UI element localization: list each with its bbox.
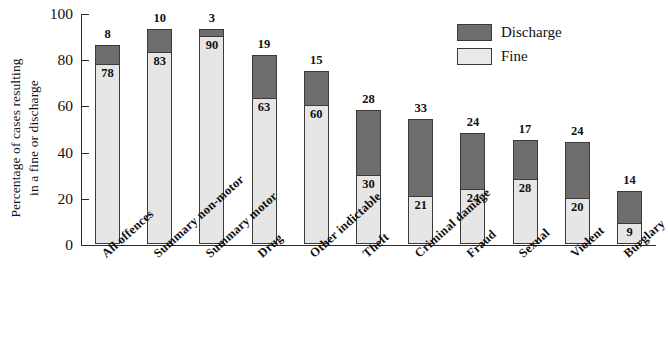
bar-segment-discharge[interactable] <box>199 29 224 36</box>
bar-segment-discharge[interactable] <box>565 142 590 197</box>
bar-theft[interactable]: 2830 <box>356 110 381 244</box>
y-axis-line <box>81 14 82 246</box>
chart-legend: Discharge Fine <box>457 22 627 70</box>
bar-top-label: 24 <box>451 116 494 129</box>
y-axis-tick-mark <box>82 153 89 154</box>
bar-segment-discharge[interactable] <box>408 119 433 195</box>
bar-criminal-damage[interactable]: 3321 <box>408 119 433 244</box>
bar-segment-fine-value: 20 <box>566 201 589 214</box>
bar-segment-discharge[interactable] <box>513 140 538 179</box>
bar-segment-fine[interactable]: 78 <box>95 64 120 244</box>
y-axis-tick-mark <box>82 60 89 61</box>
bar-top-label: 8 <box>86 28 129 41</box>
bar-top-label: 15 <box>295 54 338 67</box>
bar-violent[interactable]: 2420 <box>565 142 590 244</box>
bar-segment-discharge[interactable] <box>460 133 485 188</box>
bar-all-offences[interactable]: 878 <box>95 45 120 244</box>
bar-top-label: 28 <box>347 93 390 106</box>
bar-segment-discharge[interactable] <box>147 29 172 52</box>
bar-segment-fine-value: 60 <box>305 108 328 121</box>
y-tick-label: 20 <box>33 191 73 207</box>
bar-top-label: 10 <box>138 12 181 25</box>
y-axis-title-line-1: Percentage of cases resulting <box>7 13 25 263</box>
bar-top-label: 3 <box>190 12 233 25</box>
bar-top-label: 14 <box>608 174 651 187</box>
bar-segment-discharge[interactable] <box>95 45 120 63</box>
bar-other-indictable[interactable]: 1560 <box>304 71 329 244</box>
legend-swatch-fine-icon <box>457 48 492 65</box>
y-axis-title-line-2: in a fine or discharge <box>25 13 43 263</box>
bar-segment-fine[interactable]: 60 <box>304 105 329 244</box>
legend-label-discharge: Discharge <box>501 25 562 40</box>
legend-swatch-discharge-icon <box>457 24 492 41</box>
bar-segment-fine-value: 28 <box>514 182 537 195</box>
y-axis-tick-mark <box>82 14 89 15</box>
legend-label-fine: Fine <box>501 49 528 64</box>
bar-segment-discharge[interactable] <box>252 55 277 99</box>
legend-item-fine: Fine <box>457 46 627 67</box>
y-tick-label: 80 <box>33 52 73 68</box>
bar-top-label: 19 <box>243 38 286 51</box>
bar-segment-fine-value: 63 <box>253 101 276 114</box>
bar-segment-discharge[interactable] <box>617 191 642 223</box>
y-tick-label: 0 <box>33 237 73 253</box>
bar-segment-fine-value: 90 <box>200 39 223 52</box>
y-tick-label: 100 <box>33 6 73 22</box>
y-axis-tick-mark <box>82 199 89 200</box>
bar-segment-discharge[interactable] <box>356 110 381 175</box>
bar-segment-fine-value: 30 <box>357 178 380 191</box>
bar-top-label: 24 <box>556 125 599 138</box>
y-axis-tick-mark <box>82 245 89 246</box>
bar-segment-discharge[interactable] <box>304 71 329 106</box>
bar-top-label: 17 <box>504 123 547 136</box>
bar-sexual[interactable]: 1728 <box>513 140 538 244</box>
bar-segment-fine-value: 78 <box>96 67 119 80</box>
y-axis-tick-mark <box>82 106 89 107</box>
bar-top-label: 33 <box>399 102 442 115</box>
legend-item-discharge: Discharge <box>457 22 627 43</box>
y-axis-title: Percentage of cases resulting in a fine … <box>7 13 45 263</box>
bar-segment-fine-value: 83 <box>148 55 171 68</box>
y-tick-label: 40 <box>33 145 73 161</box>
y-tick-label: 60 <box>33 98 73 114</box>
bar-segment-fine-value: 21 <box>409 199 432 212</box>
